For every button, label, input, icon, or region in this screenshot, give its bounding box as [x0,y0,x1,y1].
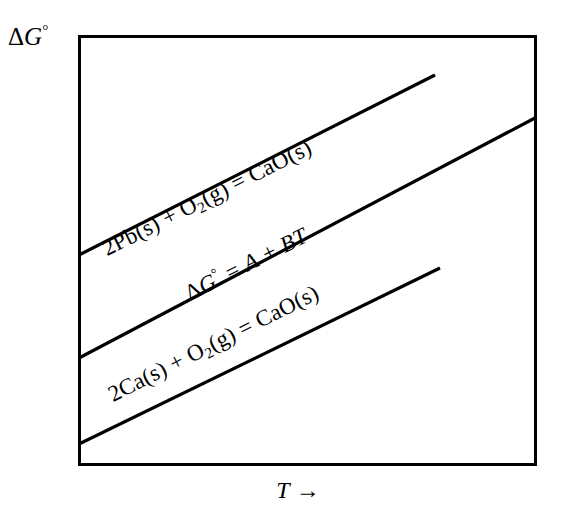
plot-area-frame [78,35,537,466]
x-axis-label: T→ [0,478,582,502]
y-axis-g-symbol: G [24,23,42,50]
y-axis-degree-symbol: ° [42,21,48,38]
ellingham-style-diagram: ΔG° 2Pb(s) + O2(g) = CaO(s) ΔG° = A + BT… [0,0,582,527]
x-axis-arrow-icon: → [290,477,320,503]
y-axis-delta-symbol: Δ [8,23,24,50]
y-axis-label: ΔG° [8,22,48,49]
x-axis-t-symbol: T [276,477,289,503]
